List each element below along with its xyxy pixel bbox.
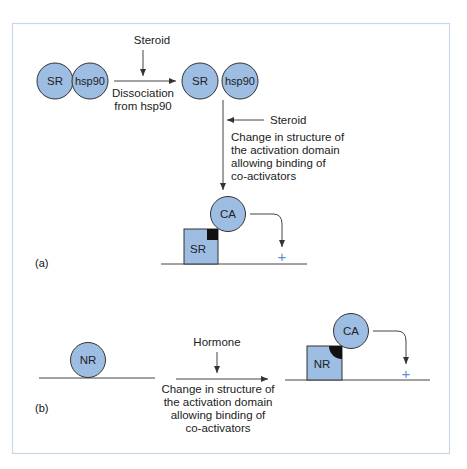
diagram-canvas: (a) SR hsp90 Steroid Dissociation from h… — [0, 0, 467, 469]
conversion-caption-4: co-activators — [185, 422, 250, 434]
bound-sr-label: SR — [190, 243, 206, 255]
activation-effect-arrow-a — [250, 214, 282, 247]
steroid-label-1: Steroid — [134, 34, 170, 46]
steroid-label-2: Steroid — [270, 114, 306, 126]
panel-a: (a) SR hsp90 Steroid Dissociation from h… — [35, 34, 345, 269]
conversion-caption-3: allowing binding of — [171, 409, 266, 421]
plus-icon-b: + — [402, 365, 411, 382]
panel-b-label: (b) — [35, 402, 48, 414]
nr-label: NR — [80, 354, 97, 366]
activation-caption-2: the activation domain — [231, 144, 340, 156]
hormone-label: Hormone — [193, 336, 240, 348]
sr-label: SR — [47, 75, 63, 87]
sr-hsp90-complex: SR hsp90 — [37, 63, 108, 99]
ca-label-b: CA — [343, 325, 359, 337]
bound-nr-label: NR — [314, 358, 331, 370]
free-hsp90-label: hsp90 — [225, 75, 255, 87]
activation-caption-1: Change in structure of — [231, 131, 345, 143]
conversion-caption-2: the activation domain — [164, 396, 273, 408]
activation-caption-4: co-activators — [231, 170, 296, 182]
hsp90-label: hsp90 — [75, 75, 105, 87]
plus-icon-a: + — [278, 248, 287, 265]
activation-domain-square — [207, 229, 218, 240]
activation-effect-arrow-b — [373, 331, 406, 364]
dissociation-caption-2: from hsp90 — [114, 100, 172, 112]
conversion-caption-1: Change in structure of — [161, 383, 275, 395]
panel-b: (b) NR Hormone Change in structure of th… — [35, 314, 430, 435]
panel-a-label: (a) — [35, 257, 48, 269]
free-sr-label: SR — [192, 75, 208, 87]
ca-label-a: CA — [220, 208, 236, 220]
dissociation-caption-1: Dissociation — [112, 87, 174, 99]
activation-caption-3: allowing binding of — [231, 157, 326, 169]
